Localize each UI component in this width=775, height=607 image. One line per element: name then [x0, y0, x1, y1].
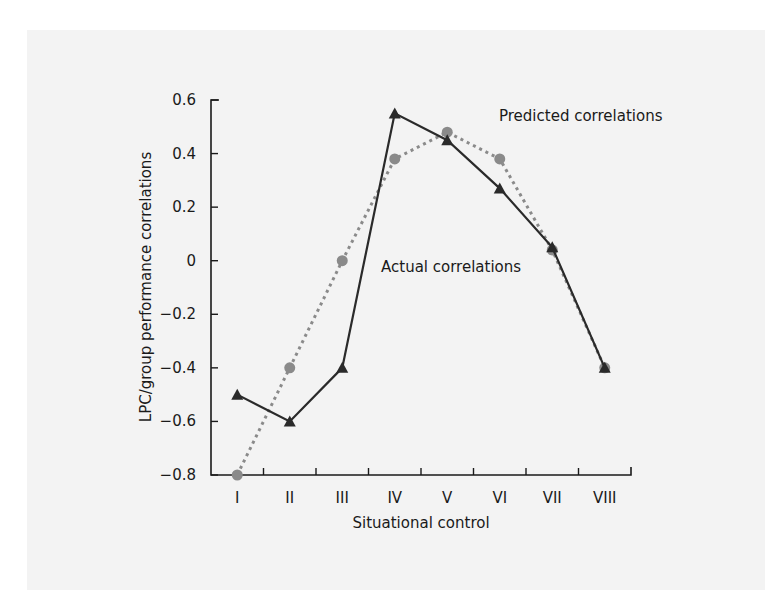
- y-axis-ticks: 0.60.40.20−0.2−0.4−0.6−0.8: [160, 91, 218, 484]
- x-tick-label: VII: [543, 489, 562, 507]
- circle-marker: [284, 362, 295, 373]
- x-tick-label: II: [285, 489, 294, 507]
- circle-marker: [232, 470, 243, 481]
- y-axis-title: LPC/group performance correlations: [137, 152, 155, 423]
- x-tick-label: III: [336, 489, 349, 507]
- triangle-marker: [336, 362, 348, 373]
- circle-marker: [337, 255, 348, 266]
- y-tick-label: 0.2: [172, 198, 196, 216]
- triangle-marker: [231, 389, 243, 400]
- y-tick-label: −0.4: [160, 359, 196, 377]
- predicted-correlations-series: [232, 127, 611, 481]
- x-axis-title: Situational control: [352, 514, 489, 532]
- x-tick-label: VIII: [593, 489, 617, 507]
- triangle-marker: [389, 107, 401, 118]
- y-tick-label: −0.2: [160, 305, 196, 323]
- y-tick-label: 0: [186, 252, 196, 270]
- actual-correlations-label: Actual correlations: [381, 258, 521, 276]
- x-tick-label: I: [235, 489, 239, 507]
- x-axis-ticks: IIIIIIIVVVIVIIVIII: [235, 468, 616, 507]
- y-tick-label: −0.8: [160, 466, 196, 484]
- x-tick-label: VI: [492, 489, 507, 507]
- circle-marker: [389, 153, 400, 164]
- y-tick-label: 0.6: [172, 91, 196, 109]
- line-chart: 0.60.40.20−0.2−0.4−0.6−0.8 IIIIIIIVVVIVI…: [0, 0, 775, 607]
- predicted-correlations-label: Predicted correlations: [499, 107, 663, 125]
- x-tick-label: IV: [387, 489, 402, 507]
- series-group: [231, 107, 611, 480]
- x-tick-label: V: [442, 489, 453, 507]
- y-tick-label: −0.6: [160, 412, 196, 430]
- y-tick-label: 0.4: [172, 145, 196, 163]
- circle-marker: [494, 153, 505, 164]
